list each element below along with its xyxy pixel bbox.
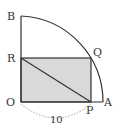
label-b: B: [7, 10, 15, 23]
label-p: P: [86, 104, 94, 117]
measure-label: 10: [50, 114, 63, 125]
label-a: A: [103, 96, 113, 109]
diagram-canvas: B R Q O P A 10: [0, 0, 121, 129]
label-o: O: [6, 96, 15, 109]
label-r: R: [7, 52, 16, 65]
label-q: Q: [93, 46, 102, 59]
